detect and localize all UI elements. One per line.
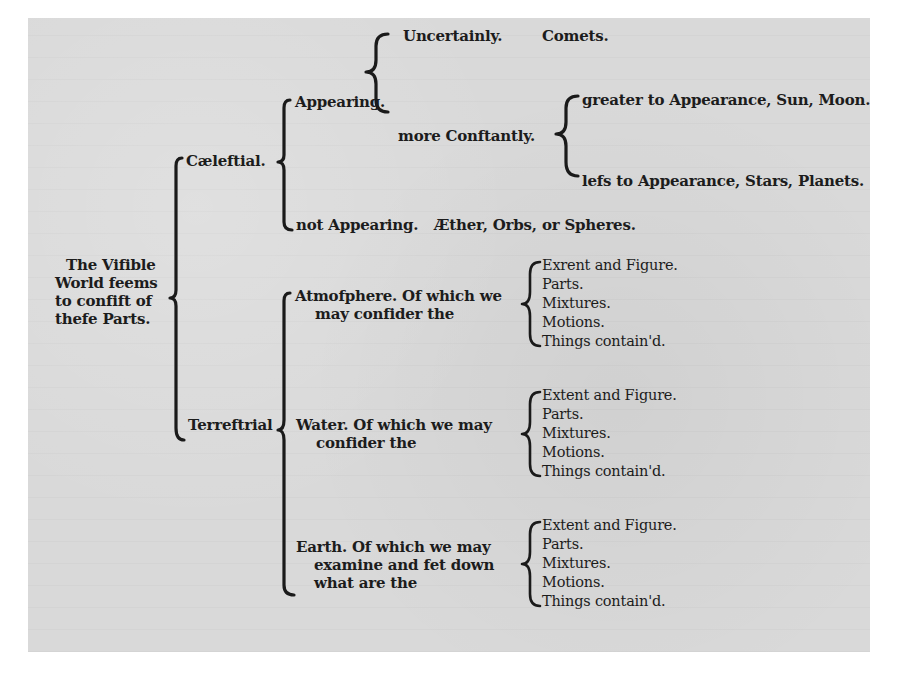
water-label-line: confider the [316, 434, 416, 452]
appearing-label: Appearing. [295, 93, 385, 111]
aether-value: Æther, Orbs, or Spheres. [434, 216, 636, 234]
terrestrial-label: Terreftrial [188, 416, 273, 434]
earth-item: Parts. [542, 535, 583, 553]
earth-item: Motions. [542, 573, 605, 591]
atmosphere-item: Parts. [542, 275, 583, 293]
less-to-appearance: lefs to Appearance, Stars, Planets. [582, 172, 864, 190]
atmosphere-item: Exrent and Figure. [542, 256, 678, 274]
earth-label-line: what are the [314, 574, 417, 592]
water-item: Motions. [542, 443, 605, 461]
earth-item: Things contain'd. [542, 592, 665, 610]
atmosphere-item: Mixtures. [542, 294, 611, 312]
water-item: Extent and Figure. [542, 386, 677, 404]
water-item: Things contain'd. [542, 462, 665, 480]
earth-label-line: examine and fet down [314, 556, 494, 574]
water-label-line: Water. Of which we may [296, 416, 492, 434]
celestial-label: Cæleftial. [186, 152, 266, 170]
atmosphere-item: Things contain'd. [542, 332, 665, 350]
comets-value: Comets. [542, 27, 609, 45]
more-constantly-label: more Conftantly. [398, 127, 535, 145]
atmosphere-item: Motions. [542, 313, 605, 331]
water-item: Mixtures. [542, 424, 611, 442]
not-appearing-label: not Appearing. [296, 216, 418, 234]
earth-label-line: Earth. Of which we may [296, 538, 490, 556]
greater-to-appearance: greater to Appearance, Sun, Moon. [582, 91, 870, 109]
atmosphere-label-line: Atmofphere. Of which we [295, 287, 502, 305]
root-label-line: World feems [55, 274, 158, 292]
earth-item: Extent and Figure. [542, 516, 677, 534]
earth-item: Mixtures. [542, 554, 611, 572]
uncertainly-label: Uncertainly. [403, 27, 502, 45]
root-label-line: The Vifible [66, 256, 156, 274]
root-label-line: thefe Parts. [55, 310, 150, 328]
root-label-line: to confift of [55, 292, 152, 310]
atmosphere-label-line: may confider the [315, 305, 454, 323]
water-item: Parts. [542, 405, 583, 423]
